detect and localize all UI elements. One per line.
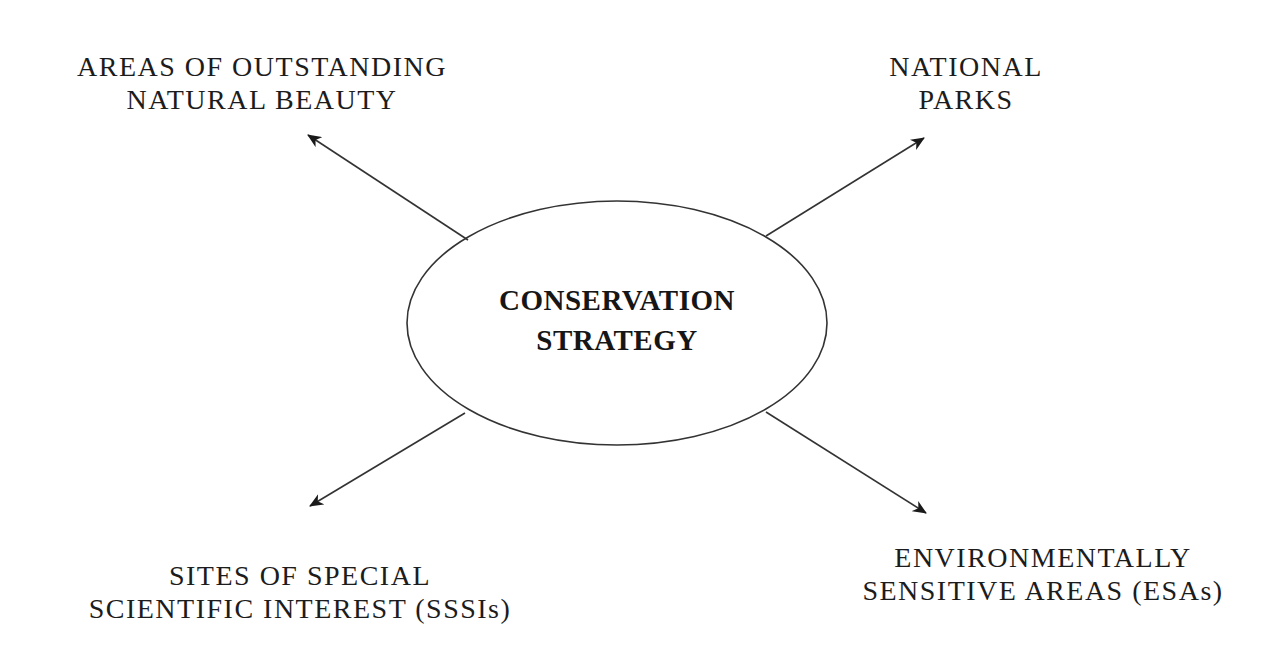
- arrow-to-esa: [766, 412, 926, 513]
- node-national-parks-label: NATIONAL PARKS: [816, 50, 1116, 116]
- arrow-to-aonb: [308, 135, 468, 240]
- center-label-line-2: STRATEGY: [467, 320, 767, 360]
- node-aonb-label: AREAS OF OUTSTANDING NATURAL BEAUTY: [12, 50, 512, 116]
- node-esa-label: ENVIRONMENTALLY SENSITIVE AREAS (ESAs): [803, 541, 1283, 607]
- aonb-label-line-1: AREAS OF OUTSTANDING: [12, 50, 512, 83]
- esa-label-line-2: SENSITIVE AREAS (ESAs): [803, 574, 1283, 607]
- center-node-label: CONSERVATION STRATEGY: [467, 280, 767, 360]
- esa-label-line-1: ENVIRONMENTALLY: [803, 541, 1283, 574]
- national-parks-label-line-1: NATIONAL: [816, 50, 1116, 83]
- sssi-label-line-2: SCIENTIFIC INTEREST (SSSIs): [20, 592, 580, 625]
- aonb-label-line-2: NATURAL BEAUTY: [12, 83, 512, 116]
- node-sssi-label: SITES OF SPECIAL SCIENTIFIC INTEREST (SS…: [20, 559, 580, 625]
- national-parks-label-line-2: PARKS: [816, 83, 1116, 116]
- arrow-to-national-parks: [766, 138, 924, 236]
- arrow-to-sssi: [310, 413, 465, 506]
- center-label-line-1: CONSERVATION: [467, 280, 767, 320]
- sssi-label-line-1: SITES OF SPECIAL: [20, 559, 580, 592]
